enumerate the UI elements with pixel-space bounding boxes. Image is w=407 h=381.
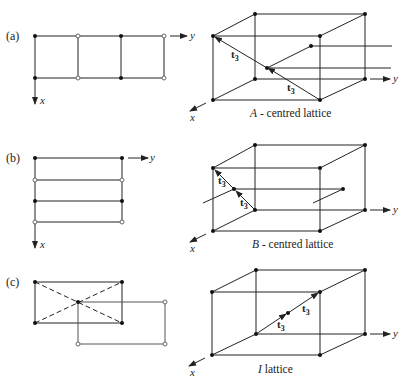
y-axis-label: y — [189, 29, 195, 41]
panel-a-unit-cell: t3 t3 y x A - centred lattice — [189, 12, 398, 123]
y-axis-label-3d: y — [392, 203, 398, 215]
x-axis-arrow-3d — [190, 234, 206, 242]
t3-label-lower: t3 — [277, 318, 285, 333]
panel-b-unit-cell: t3 t3 y x B - centred lattice — [189, 143, 398, 254]
lattice-figure: (a) y x — [0, 0, 407, 381]
panel-c-projection — [33, 280, 167, 346]
panel-c-unit-cell: t3 t3 y x I lattice — [189, 268, 398, 378]
panel-c-caption: I lattice — [257, 363, 293, 375]
x-axis-arrow-3d — [189, 358, 205, 366]
x-axis-label-3d: x — [189, 242, 195, 254]
x-axis-label: x — [39, 238, 45, 250]
panel-a-projection: y x — [33, 29, 195, 106]
t3-label-upper: t3 — [302, 302, 310, 317]
y-axis-label: y — [149, 151, 155, 163]
y-axis-label-3d: y — [392, 327, 398, 339]
panel-c-label: (c) — [6, 275, 19, 289]
x-axis-label: x — [39, 94, 45, 106]
panel-c: (c) t3 — [6, 268, 398, 378]
panel-b-label: (b) — [6, 151, 20, 165]
x-axis-label-3d: x — [189, 111, 195, 123]
y-axis-label-3d: y — [392, 72, 398, 84]
panel-a: (a) y x — [6, 12, 398, 123]
panel-b-projection: y x — [33, 151, 155, 250]
panel-a-caption: A - centred lattice — [249, 107, 331, 119]
x-axis-arrow-3d — [190, 103, 206, 111]
panel-b: (b) y x — [6, 143, 398, 254]
panel-a-label: (a) — [6, 29, 19, 43]
panel-b-caption: B - centred lattice — [252, 238, 333, 250]
x-axis-label-3d: x — [189, 366, 195, 378]
